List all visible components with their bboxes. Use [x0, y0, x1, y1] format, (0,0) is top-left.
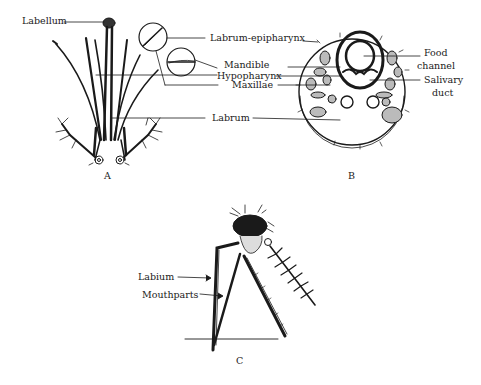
label-labellum: Labellum [22, 16, 67, 26]
label-labrum-epipharynx: Labrum-epipharynx [210, 33, 305, 43]
panel-label-c: C [236, 355, 243, 366]
label-food: Food [424, 48, 448, 58]
label-salivary: Salivary [424, 75, 463, 85]
panel-b-drawing [296, 32, 409, 149]
label-maxillae: Maxillae [232, 80, 273, 90]
panel-label-a: A [104, 170, 111, 181]
mouthparts-diagram [0, 0, 481, 385]
label-mouthparts: Mouthparts [142, 290, 198, 300]
label-labrum: Labrum [212, 113, 250, 123]
panel-a-leaders [64, 22, 218, 125]
label-channel: channel [417, 61, 455, 71]
label-labium: Labium [138, 272, 174, 282]
panel-label-b: B [348, 170, 355, 181]
panel-a-drawing [53, 18, 195, 165]
label-mandible: Mandible [224, 60, 269, 70]
label-duct: duct [432, 88, 453, 98]
